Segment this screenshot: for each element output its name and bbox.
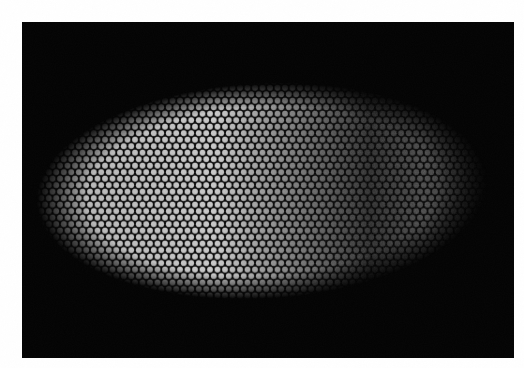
micrograph bbox=[0, 0, 524, 368]
background-noise bbox=[22, 22, 514, 358]
